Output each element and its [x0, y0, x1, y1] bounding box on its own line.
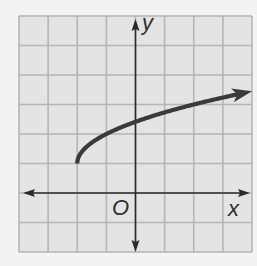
coordinate-plane: [0, 0, 257, 266]
x-axis-label: x: [228, 198, 239, 220]
y-axis-label: y: [142, 12, 153, 34]
origin-label: O: [112, 197, 129, 219]
